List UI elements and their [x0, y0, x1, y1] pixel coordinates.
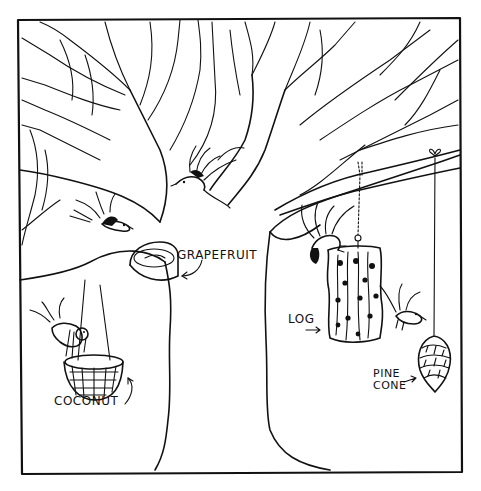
- pine-cone-feeder: [419, 149, 451, 392]
- log-arrow: [306, 327, 320, 333]
- log-label: LOG: [288, 313, 315, 325]
- tree-feeder-illustration: [0, 0, 481, 491]
- tree-trunk: [20, 75, 460, 470]
- log-feeder: [327, 162, 382, 342]
- grapefruit-feeder: [130, 242, 178, 280]
- pine-cone-label-line2: CONE: [373, 380, 407, 392]
- bird-upper-left-flying: [70, 192, 133, 231]
- right-limb: [275, 145, 460, 215]
- coconut-arrow: [125, 378, 133, 404]
- grapefruit-arrow: [182, 260, 202, 279]
- coconut-label: COCONUT: [54, 395, 118, 407]
- canopy-branches: [22, 20, 458, 245]
- bird-near-pine-cone: [380, 284, 426, 330]
- grapefruit-label: GRAPEFRUIT: [177, 249, 257, 261]
